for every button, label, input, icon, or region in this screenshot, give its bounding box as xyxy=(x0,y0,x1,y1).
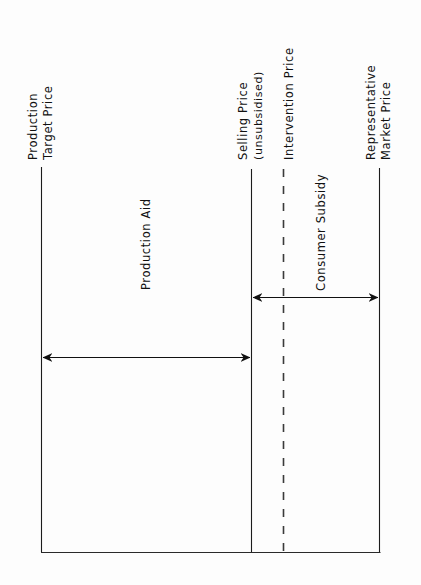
label-representative-market-price-line2: Market Price xyxy=(381,82,393,160)
label-production-target-price-line2: Target Price xyxy=(43,86,55,161)
diagram-canvas xyxy=(0,0,421,585)
label-selling-price-line1: Selling Price xyxy=(238,82,250,160)
price-support-diagram: Production Target Price Selling Price (u… xyxy=(0,0,421,585)
label-production-aid: Production Aid xyxy=(141,198,153,290)
label-consumer-subsidy: Consumer Subsidy xyxy=(316,174,328,291)
label-representative-market-price-line1: Representative xyxy=(366,65,378,160)
label-selling-price-line2: (unsubsidised) xyxy=(253,71,264,160)
label-production-target-price-line1: Production xyxy=(28,93,40,160)
label-intervention-price: Intervention Price xyxy=(284,47,296,160)
